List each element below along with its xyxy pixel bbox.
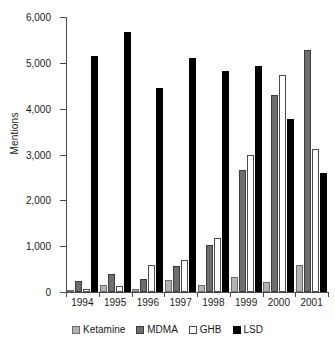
chart-legend: KetamineMDMAGHBLSD bbox=[0, 324, 335, 335]
bar-mdma-1997 bbox=[173, 266, 180, 292]
bar-mdma-1998 bbox=[206, 245, 213, 292]
bar-group bbox=[295, 17, 328, 292]
bar-ghb-1998 bbox=[214, 238, 221, 292]
bar-ketamine-1999 bbox=[231, 277, 238, 292]
bar-ketamine-1996 bbox=[132, 289, 139, 292]
legend-swatch-ketamine bbox=[72, 326, 80, 334]
legend-swatch-ghb bbox=[189, 326, 197, 334]
bar-mdma-2000 bbox=[271, 95, 278, 292]
bar-mdma-1994 bbox=[75, 281, 82, 292]
x-axis-label-2001: 2001 bbox=[295, 297, 328, 308]
bar-ghb-1997 bbox=[181, 260, 188, 292]
y-axis-tick-label: 4,000 bbox=[26, 103, 51, 114]
legend-label-ghb: GHB bbox=[200, 324, 222, 335]
bar-lsd-1996 bbox=[156, 88, 163, 292]
bar-group bbox=[99, 17, 132, 292]
bar-mdma-1996 bbox=[140, 279, 147, 292]
bar-ghb-2001 bbox=[312, 149, 319, 292]
x-axis-label-1994: 1994 bbox=[66, 297, 99, 308]
bar-mdma-1999 bbox=[239, 170, 246, 292]
bar-mdma-2001 bbox=[304, 50, 311, 292]
bar-lsd-1994 bbox=[91, 56, 98, 292]
bar-ketamine-2000 bbox=[263, 282, 270, 292]
x-axis-label-2000: 2000 bbox=[263, 297, 296, 308]
x-axis-tick bbox=[328, 292, 329, 297]
bar-lsd-2000 bbox=[287, 119, 294, 292]
y-axis-tick-label: 1,000 bbox=[26, 241, 51, 252]
bar-lsd-2001 bbox=[320, 173, 327, 292]
y-axis-tick-label: 3,000 bbox=[26, 149, 51, 160]
bar-group bbox=[164, 17, 197, 292]
x-axis-label-1999: 1999 bbox=[230, 297, 263, 308]
legend-item-mdma: MDMA bbox=[136, 324, 178, 335]
bar-lsd-1995 bbox=[124, 32, 131, 292]
bar-ghb-1995 bbox=[116, 286, 123, 292]
bar-chart: Mentions 01,0002,0003,0004,0005,0006,000… bbox=[0, 0, 335, 343]
bar-ghb-1994 bbox=[83, 289, 90, 292]
legend-swatch-lsd bbox=[233, 326, 241, 334]
x-axis-label-1998: 1998 bbox=[197, 297, 230, 308]
bar-ketamine-1997 bbox=[165, 280, 172, 292]
legend-item-ghb: GHB bbox=[189, 324, 222, 335]
bar-lsd-1997 bbox=[189, 58, 196, 292]
legend-item-lsd: LSD bbox=[233, 324, 263, 335]
bar-mdma-1995 bbox=[108, 274, 115, 292]
bar-group bbox=[197, 17, 230, 292]
bar-group bbox=[230, 17, 263, 292]
bar-ketamine-1995 bbox=[100, 285, 107, 292]
y-axis-tick-label: 5,000 bbox=[26, 57, 51, 68]
bar-group bbox=[66, 17, 99, 292]
plot-area: 01,0002,0003,0004,0005,0006,000 bbox=[66, 17, 328, 292]
bar-ketamine-1994 bbox=[67, 290, 74, 292]
legend-label-ketamine: Ketamine bbox=[83, 324, 125, 335]
x-axis-label-1995: 1995 bbox=[99, 297, 132, 308]
y-axis-tick-label: 0 bbox=[45, 287, 51, 298]
legend-swatch-mdma bbox=[136, 326, 144, 334]
y-axis-tick-label: 2,000 bbox=[26, 195, 51, 206]
bar-ketamine-1998 bbox=[198, 285, 205, 292]
bar-lsd-1998 bbox=[222, 71, 229, 292]
bar-group bbox=[263, 17, 296, 292]
y-axis-title: Mentions bbox=[9, 99, 20, 169]
bar-group bbox=[132, 17, 165, 292]
bar-ketamine-2001 bbox=[296, 265, 303, 292]
x-axis-label-1996: 1996 bbox=[132, 297, 165, 308]
bar-ghb-2000 bbox=[279, 75, 286, 292]
y-axis-tick-label: 6,000 bbox=[26, 12, 51, 23]
bar-ghb-1999 bbox=[247, 155, 254, 292]
bar-groups bbox=[66, 17, 328, 292]
x-axis-label-1997: 1997 bbox=[164, 297, 197, 308]
x-axis-labels: 19941995199619971998199920002001 bbox=[66, 297, 328, 308]
bar-ghb-1996 bbox=[148, 265, 155, 292]
bar-lsd-1999 bbox=[255, 66, 262, 292]
legend-label-lsd: LSD bbox=[244, 324, 263, 335]
legend-label-mdma: MDMA bbox=[147, 324, 178, 335]
legend-item-ketamine: Ketamine bbox=[72, 324, 125, 335]
